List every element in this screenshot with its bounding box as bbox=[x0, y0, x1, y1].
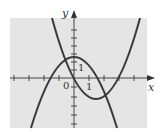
y-axis-arrow-icon bbox=[71, 10, 77, 18]
graph: y x 0 1 1 bbox=[0, 0, 160, 132]
y-axis-label: y bbox=[61, 7, 69, 20]
y-tick-label-1: 1 bbox=[78, 62, 84, 73]
origin-label: 0 bbox=[63, 80, 69, 91]
x-tick-label-1: 1 bbox=[86, 81, 92, 92]
x-axis-label: x bbox=[148, 81, 155, 94]
plot-background bbox=[10, 18, 147, 128]
